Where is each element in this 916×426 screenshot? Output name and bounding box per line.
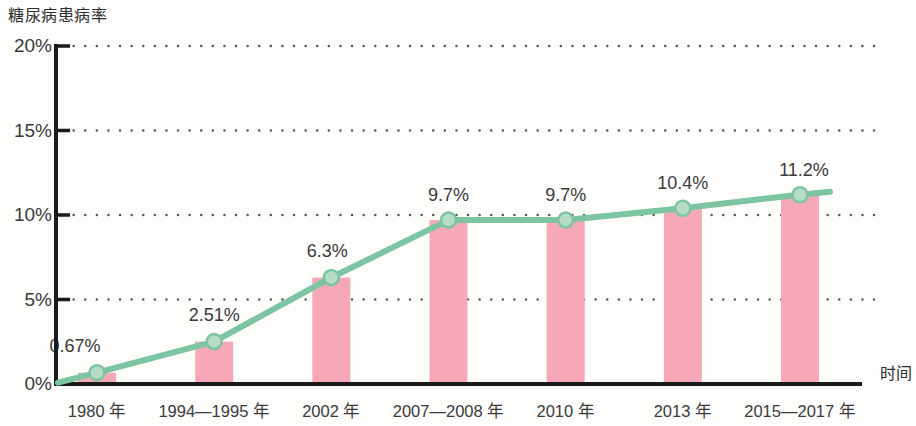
diabetes-prevalence-chart: 糖尿病患病率 时间 0%5%10%15%20% 1980 年1994—1995 … [0, 0, 916, 426]
data-point-marker [207, 334, 222, 349]
bar [430, 220, 468, 384]
data-point-marker [441, 213, 456, 228]
plot-area [0, 0, 916, 426]
data-point-marker [558, 213, 573, 228]
bar [547, 220, 585, 384]
bar [664, 208, 702, 384]
data-point-marker [90, 365, 105, 380]
bar [781, 195, 819, 384]
data-point-marker [793, 187, 808, 202]
data-point-marker [324, 270, 339, 285]
gridlines [62, 46, 876, 300]
data-point-marker [675, 201, 690, 216]
bar [312, 278, 350, 384]
